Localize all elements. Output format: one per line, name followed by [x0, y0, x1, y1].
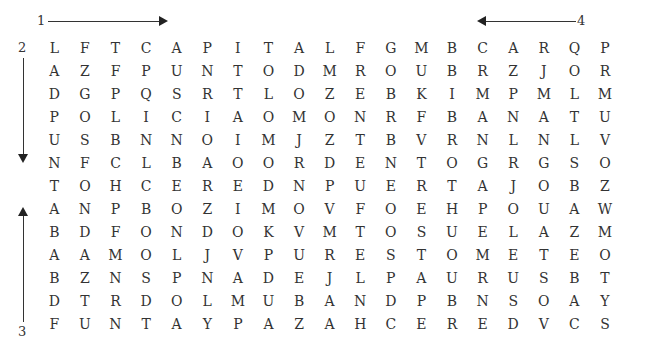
grid-cell[interactable]: F	[345, 198, 376, 221]
grid-cell[interactable]: B	[376, 129, 407, 152]
grid-cell[interactable]: D	[70, 221, 101, 244]
grid-cell[interactable]: A	[192, 152, 223, 175]
grid-cell[interactable]: N	[345, 290, 376, 313]
grid-cell[interactable]: C	[131, 37, 162, 60]
grid-cell[interactable]: R	[192, 83, 223, 106]
grid-cell[interactable]: O	[192, 129, 223, 152]
grid-cell[interactable]: A	[406, 267, 437, 290]
grid-cell[interactable]: Q	[559, 37, 590, 60]
grid-cell[interactable]: M	[223, 290, 254, 313]
grid-cell[interactable]: D	[192, 221, 223, 244]
grid-cell[interactable]: F	[100, 60, 131, 83]
grid-cell[interactable]: R	[467, 267, 498, 290]
grid-cell[interactable]: T	[100, 37, 131, 60]
grid-cell[interactable]: J	[529, 60, 560, 83]
grid-cell[interactable]: P	[376, 267, 407, 290]
grid-cell[interactable]: O	[223, 152, 254, 175]
grid-cell[interactable]: A	[529, 106, 560, 129]
grid-cell[interactable]: N	[467, 129, 498, 152]
grid-cell[interactable]: L	[192, 290, 223, 313]
grid-cell[interactable]: M	[590, 83, 621, 106]
grid-cell[interactable]: R	[467, 60, 498, 83]
grid-cell[interactable]: U	[437, 267, 468, 290]
grid-cell[interactable]: C	[100, 152, 131, 175]
grid-cell[interactable]: A	[498, 37, 529, 60]
grid-cell[interactable]: S	[406, 221, 437, 244]
grid-cell[interactable]: U	[39, 129, 70, 152]
grid-cell[interactable]: L	[314, 37, 345, 60]
grid-cell[interactable]: P	[100, 83, 131, 106]
grid-cell[interactable]: B	[559, 175, 590, 198]
grid-cell[interactable]: B	[39, 221, 70, 244]
grid-cell[interactable]: O	[529, 175, 560, 198]
grid-cell[interactable]: I	[223, 129, 254, 152]
grid-cell[interactable]: T	[345, 129, 376, 152]
grid-cell[interactable]: U	[590, 106, 621, 129]
grid-cell[interactable]: U	[529, 198, 560, 221]
grid-cell[interactable]: R	[192, 175, 223, 198]
grid-cell[interactable]: L	[100, 106, 131, 129]
grid-cell[interactable]: S	[131, 267, 162, 290]
grid-cell[interactable]: I	[131, 106, 162, 129]
grid-cell[interactable]: S	[590, 313, 621, 336]
grid-cell[interactable]: A	[314, 313, 345, 336]
grid-cell[interactable]: J	[314, 267, 345, 290]
grid-cell[interactable]: O	[529, 290, 560, 313]
grid-cell[interactable]: R	[498, 152, 529, 175]
grid-cell[interactable]: U	[70, 313, 101, 336]
grid-cell[interactable]: A	[529, 221, 560, 244]
grid-cell[interactable]: O	[70, 175, 101, 198]
grid-cell[interactable]: O	[223, 221, 254, 244]
grid-cell[interactable]: D	[498, 313, 529, 336]
grid-cell[interactable]: A	[314, 290, 345, 313]
grid-cell[interactable]: E	[406, 198, 437, 221]
grid-cell[interactable]: V	[590, 129, 621, 152]
grid-cell[interactable]: O	[131, 244, 162, 267]
grid-cell[interactable]: R	[100, 290, 131, 313]
grid-cell[interactable]: P	[590, 37, 621, 60]
grid-cell[interactable]: D	[253, 267, 284, 290]
grid-cell[interactable]: N	[70, 198, 101, 221]
grid-cell[interactable]: M	[467, 244, 498, 267]
grid-cell[interactable]: B	[437, 106, 468, 129]
grid-cell[interactable]: V	[284, 221, 315, 244]
grid-cell[interactable]: E	[559, 244, 590, 267]
grid-cell[interactable]: E	[345, 152, 376, 175]
grid-cell[interactable]: L	[559, 129, 590, 152]
grid-cell[interactable]: L	[161, 244, 192, 267]
grid-cell[interactable]: A	[161, 37, 192, 60]
grid-cell[interactable]: U	[406, 60, 437, 83]
grid-cell[interactable]: E	[498, 244, 529, 267]
grid-cell[interactable]: O	[253, 60, 284, 83]
grid-cell[interactable]: R	[406, 175, 437, 198]
grid-cell[interactable]: S	[498, 290, 529, 313]
grid-cell[interactable]: B	[131, 198, 162, 221]
grid-cell[interactable]: N	[498, 106, 529, 129]
grid-cell[interactable]: F	[406, 106, 437, 129]
grid-cell[interactable]: F	[70, 37, 101, 60]
grid-cell[interactable]: M	[253, 129, 284, 152]
grid-cell[interactable]: B	[376, 83, 407, 106]
grid-cell[interactable]: E	[223, 175, 254, 198]
grid-cell[interactable]: T	[253, 37, 284, 60]
grid-cell[interactable]: O	[253, 106, 284, 129]
grid-cell[interactable]: N	[39, 152, 70, 175]
grid-cell[interactable]: N	[161, 129, 192, 152]
grid-cell[interactable]: T	[529, 244, 560, 267]
grid-cell[interactable]: T	[406, 152, 437, 175]
grid-cell[interactable]: N	[467, 290, 498, 313]
grid-cell[interactable]: A	[39, 198, 70, 221]
grid-cell[interactable]: A	[467, 175, 498, 198]
grid-cell[interactable]: A	[223, 106, 254, 129]
grid-cell[interactable]: S	[70, 129, 101, 152]
grid-cell[interactable]: O	[131, 221, 162, 244]
grid-cell[interactable]: S	[376, 244, 407, 267]
grid-cell[interactable]: P	[131, 60, 162, 83]
grid-cell[interactable]: J	[192, 244, 223, 267]
grid-cell[interactable]: L	[131, 152, 162, 175]
grid-cell[interactable]: U	[253, 290, 284, 313]
grid-cell[interactable]: C	[131, 175, 162, 198]
grid-cell[interactable]: O	[253, 152, 284, 175]
grid-cell[interactable]: P	[406, 290, 437, 313]
grid-cell[interactable]: N	[161, 221, 192, 244]
